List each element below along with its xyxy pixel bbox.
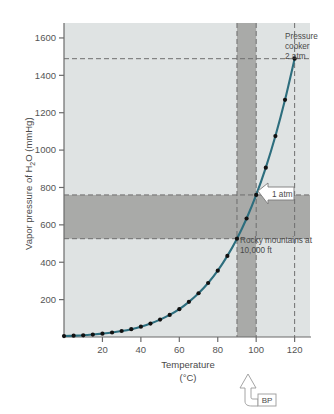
bp-label: BP — [262, 396, 273, 405]
x-tick-label: 40 — [136, 344, 147, 355]
y-tick-label: 1400 — [35, 70, 56, 81]
chart-svg: 2004006008001000120014001600 20406080100… — [0, 0, 334, 414]
data-point — [129, 327, 133, 331]
data-point — [148, 321, 152, 325]
data-point — [72, 334, 76, 338]
y-tick-label: 400 — [40, 257, 56, 268]
rocky-line1: Rocky mountains at — [240, 236, 313, 245]
data-point — [91, 332, 95, 336]
data-point — [216, 269, 220, 273]
y-tick-label: 1000 — [35, 144, 56, 155]
data-point — [177, 307, 181, 311]
data-point — [206, 281, 210, 285]
plot-background — [64, 23, 310, 337]
x-tick-label: 120 — [287, 344, 303, 355]
data-point — [283, 98, 287, 102]
one-atm-label: 1 atm — [272, 190, 293, 199]
y-tick-label: 1200 — [35, 107, 56, 118]
data-point — [110, 330, 114, 334]
pressure-band — [64, 195, 310, 239]
x-tick-label: 20 — [97, 344, 108, 355]
pressure-cooker-line1: Pressure — [285, 32, 318, 41]
data-point — [100, 332, 104, 336]
y-tick-label: 800 — [40, 182, 56, 193]
temperature-band — [237, 23, 256, 337]
x-axis-units-text: (°C) — [180, 372, 197, 383]
data-point — [196, 291, 200, 295]
x-tick-label: 100 — [248, 344, 264, 355]
data-point — [168, 313, 172, 317]
data-point — [158, 318, 162, 322]
x-tick-label: 60 — [174, 344, 185, 355]
y-axis-title-text: Vapor pressure of H2O (mmHg) — [23, 117, 36, 250]
data-point — [62, 334, 66, 338]
data-point — [244, 216, 248, 220]
data-point — [273, 134, 277, 138]
y-axis-title: Vapor pressure of H2O (mmHg) — [23, 117, 36, 250]
rocky-line2: 10,000 ft — [240, 246, 273, 255]
data-point — [254, 193, 258, 197]
data-point — [81, 333, 85, 337]
pressure-cooker-line2: cooker — [285, 42, 310, 51]
data-point — [139, 325, 143, 329]
x-axis-title-text: Temperature — [161, 359, 214, 370]
x-tick-label: 80 — [212, 344, 223, 355]
data-point — [235, 237, 239, 241]
data-point — [187, 300, 191, 304]
y-tick-label: 200 — [40, 294, 56, 305]
data-point — [225, 254, 229, 258]
data-point — [120, 329, 124, 333]
vapor-pressure-chart: 2004006008001000120014001600 20406080100… — [0, 0, 334, 414]
y-tick-label: 600 — [40, 219, 56, 230]
y-tick-label: 1600 — [35, 32, 56, 43]
y-axis-title-part1: Vapor pressure of H — [23, 166, 34, 250]
pressure-cooker-line3: 2 atm — [285, 52, 306, 61]
data-point — [264, 166, 268, 170]
